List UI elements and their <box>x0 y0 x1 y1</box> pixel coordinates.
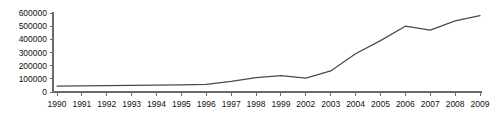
y-tick-label: 500000 <box>19 21 48 31</box>
data-series-line <box>57 16 480 86</box>
x-tick-label: 1991 <box>72 99 91 109</box>
y-tick-label: 600000 <box>19 8 48 18</box>
x-axis: 1990199119921993199419951996199719981999… <box>48 92 490 109</box>
y-tick-label: 100000 <box>19 74 48 84</box>
x-tick-label: 1993 <box>122 99 141 109</box>
y-tick-label: 400000 <box>19 34 48 44</box>
y-tick-label: 200000 <box>19 61 48 71</box>
x-tick-label: 2003 <box>321 99 340 109</box>
x-tick-label: 2006 <box>396 99 415 109</box>
chart-canvas: 0100000200000300000400000500000600000 19… <box>0 0 499 124</box>
x-tick-label: 1996 <box>197 99 216 109</box>
x-tick-label: 2005 <box>371 99 390 109</box>
y-axis: 0100000200000300000400000500000600000 <box>19 8 53 97</box>
x-tick-label: 1994 <box>147 99 166 109</box>
x-tick-label: 2004 <box>346 99 365 109</box>
x-tick-label: 1995 <box>172 99 191 109</box>
x-tick-label: 2008 <box>446 99 465 109</box>
x-tick-label: 2002 <box>296 99 315 109</box>
y-tick-label: 300000 <box>19 48 48 58</box>
x-tick-label: 2007 <box>421 99 440 109</box>
line-chart: 0100000200000300000400000500000600000 19… <box>0 0 499 124</box>
x-tick-label: 1999 <box>271 99 290 109</box>
x-tick-label: 1990 <box>48 99 67 109</box>
x-tick-label: 1997 <box>222 99 241 109</box>
y-tick-label: 0 <box>42 87 47 97</box>
x-tick-label: 2009 <box>471 99 490 109</box>
x-tick-label: 1992 <box>97 99 116 109</box>
x-tick-label: 1998 <box>247 99 266 109</box>
